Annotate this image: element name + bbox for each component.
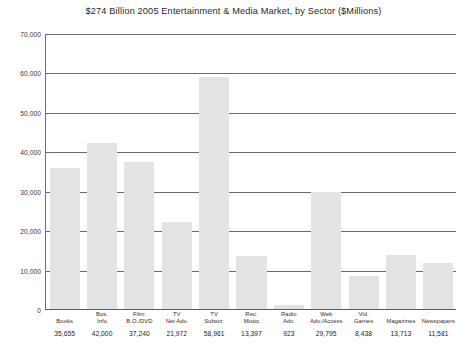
x-axis-category: Books35,655 (46, 311, 83, 338)
category-label-line: TV (195, 311, 232, 318)
category-label-line: Subscr. (195, 318, 232, 325)
bar (162, 222, 192, 309)
x-axis-category: WebAdv./Access29,795 (308, 311, 345, 338)
y-axis-tick-labels: 70,00060,00050,00040,00030,00020,00010,0… (0, 34, 41, 310)
category-label-line: Info (83, 318, 120, 325)
category-value-label: 21,972 (158, 330, 195, 338)
y-axis-tick-label: 30,000 (0, 188, 41, 195)
x-axis-category: TVSubscr.58,961 (195, 311, 232, 338)
category-label-line: Rec. (233, 311, 270, 318)
category-value-label: 37,240 (121, 330, 158, 338)
y-axis-tick-label: 0 (0, 307, 41, 314)
category-label-line: Radio (270, 311, 307, 318)
plot-area (45, 34, 456, 310)
y-axis-tick-label: 50,000 (0, 109, 41, 116)
category-label-spacer (382, 311, 419, 318)
category-label-line: Web (308, 311, 345, 318)
bar (124, 162, 154, 309)
bar (236, 256, 266, 309)
category-value-label: 58,961 (195, 330, 232, 338)
y-axis-tick-label: 20,000 (0, 228, 41, 235)
category-value-label: 13,397 (233, 330, 270, 338)
bar (50, 168, 80, 309)
x-axis-category: Film:B.O./DVD37,240 (121, 311, 158, 338)
x-axis-category: Magazines13,713 (382, 311, 419, 338)
category-value-label: 13,713 (382, 330, 419, 338)
x-axis-category: Vid.Games8,438 (345, 311, 382, 338)
bar (386, 255, 416, 309)
x-axis-category: TVNet Adv.21,972 (158, 311, 195, 338)
x-axis-category: Rec.Music13,397 (233, 311, 270, 338)
category-label-line: Adv. (270, 318, 307, 325)
bar-chart: $274 Billion 2005 Entertainment & Media … (0, 0, 467, 347)
y-axis-tick-label: 10,000 (0, 267, 41, 274)
bar (423, 263, 453, 309)
category-label-line: Net Adv. (158, 318, 195, 325)
chart-title: $274 Billion 2005 Entertainment & Media … (0, 6, 467, 16)
category-label-line: Newspapers (420, 318, 457, 325)
bar (349, 276, 379, 309)
category-label-line: Vid. (345, 311, 382, 318)
category-label-spacer (46, 311, 83, 318)
category-label-line: TV (158, 311, 195, 318)
category-label-line: B.O./DVD (121, 318, 158, 325)
bar (87, 143, 117, 309)
category-label-line: Adv./Access (308, 318, 345, 325)
y-axis-tick-label: 60,000 (0, 70, 41, 77)
category-value-label: 42,000 (83, 330, 120, 338)
y-axis-line (45, 34, 46, 310)
category-value-label: 8,438 (345, 330, 382, 338)
category-value-label: 35,655 (46, 330, 83, 338)
x-axis-category: Newspapers11,581 (420, 311, 457, 338)
category-label-spacer (420, 311, 457, 318)
category-label-line: Film: (121, 311, 158, 318)
category-label-line: Magazines (382, 318, 419, 325)
x-axis-category-labels: Books35,655Bus.Info42,000Film:B.O./DVD37… (45, 311, 456, 347)
category-label-line: Games (345, 318, 382, 325)
category-value-label: 29,795 (308, 330, 345, 338)
category-label-line: Books (46, 318, 83, 325)
category-label-line: Bus. (83, 311, 120, 318)
y-axis-tick-label: 70,000 (0, 31, 41, 38)
x-axis-category: RadioAdv.923 (270, 311, 307, 338)
category-value-label: 923 (270, 330, 307, 338)
bar (311, 192, 341, 309)
x-axis-category: Bus.Info42,000 (83, 311, 120, 338)
y-axis-tick-label: 40,000 (0, 149, 41, 156)
bar (199, 77, 229, 309)
category-value-label: 11,581 (420, 330, 457, 338)
category-label-line: Music (233, 318, 270, 325)
bars-layer (45, 34, 456, 310)
